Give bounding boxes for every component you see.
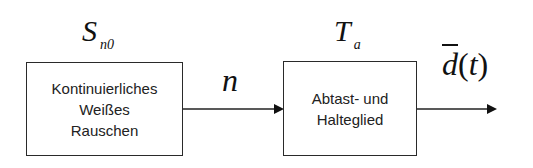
noise-psd-subscript: n0 (100, 37, 114, 52)
sampling-period-label: Ta (334, 14, 361, 48)
arrow-output (416, 104, 497, 114)
block-text-line: Abtast- und (312, 88, 389, 109)
block-text-line: Kontinuierliches (52, 78, 158, 99)
output-argument: (t) (458, 46, 488, 82)
block-diagram: Sn0 Kontinuierliches Weißes Rauschen n T… (0, 0, 533, 168)
noise-source-block: Kontinuierliches Weißes Rauschen (26, 62, 183, 156)
noise-psd-symbol: S (82, 14, 97, 47)
block-text-line: Weißes (52, 99, 158, 120)
output-signal-label: d(t) (442, 46, 488, 83)
sampling-period-subscript: a (354, 37, 361, 52)
block-text-line: Rauschen (52, 120, 158, 141)
sample-and-hold-block: Abtast- und Halteglied (283, 61, 417, 156)
noise-signal-label: n (222, 62, 238, 99)
arrow-noise-to-sampler (182, 104, 284, 114)
block-text-line: Halteglied (312, 109, 389, 130)
noise-psd-label: Sn0 (82, 14, 114, 48)
output-symbol: d (442, 46, 458, 82)
sampling-period-symbol: T (334, 14, 351, 47)
